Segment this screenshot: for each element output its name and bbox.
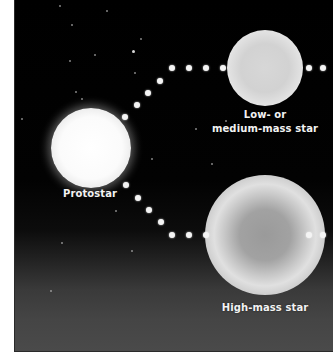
low-medium-mass-star-label-line2: medium-mass star bbox=[210, 122, 320, 136]
background-star bbox=[134, 72, 136, 74]
path-dot-upper bbox=[169, 65, 175, 71]
background-star bbox=[106, 10, 108, 12]
path-dot-upper bbox=[157, 78, 163, 84]
path-dot-lower bbox=[169, 232, 175, 238]
path-dot-upper bbox=[203, 65, 209, 71]
background-star bbox=[59, 5, 61, 7]
path-dot-upper bbox=[122, 114, 128, 120]
path-dot-lower bbox=[186, 232, 192, 238]
path-dot-upper bbox=[145, 90, 151, 96]
background-star bbox=[21, 118, 23, 120]
protostar-label: Protostar bbox=[50, 187, 130, 201]
background-star bbox=[195, 128, 197, 130]
low-medium-mass-star bbox=[227, 30, 303, 106]
background-star bbox=[132, 50, 135, 53]
path-dot-lower bbox=[135, 195, 141, 201]
background-star bbox=[71, 24, 73, 26]
path-dot-upper bbox=[186, 65, 192, 71]
background-star bbox=[75, 91, 77, 93]
background-star bbox=[81, 98, 83, 100]
background-star bbox=[140, 38, 142, 40]
protostar bbox=[51, 108, 131, 188]
background-star bbox=[115, 210, 117, 212]
high-mass-star-label: High-mass star bbox=[205, 301, 325, 315]
path-dot-upper-exit bbox=[306, 65, 312, 71]
background-star bbox=[69, 60, 71, 62]
background-star bbox=[61, 242, 63, 244]
path-dot-lower-exit bbox=[320, 232, 326, 238]
diagram-panel: Protostar Low- or medium-mass star High-… bbox=[14, 0, 333, 352]
path-dot-lower bbox=[158, 219, 164, 225]
background-star bbox=[131, 250, 133, 252]
path-dot-upper-exit bbox=[320, 65, 326, 71]
path-dot-lower bbox=[203, 232, 209, 238]
path-dot-upper bbox=[220, 65, 226, 71]
path-dot-upper bbox=[134, 102, 140, 108]
background-star bbox=[211, 163, 213, 165]
path-dot-lower-exit bbox=[306, 232, 312, 238]
low-medium-mass-star-label-line1: Low- or bbox=[210, 108, 320, 122]
background-star bbox=[151, 158, 153, 160]
background-star bbox=[94, 54, 96, 56]
path-dot-lower bbox=[146, 207, 152, 213]
background-star bbox=[50, 290, 52, 292]
low-medium-mass-star-label: Low- or medium-mass star bbox=[210, 108, 320, 136]
